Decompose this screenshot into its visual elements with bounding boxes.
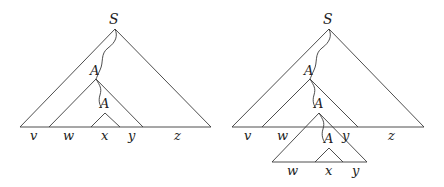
left-root-triangle xyxy=(20,29,211,127)
right-yield-y: y xyxy=(341,128,350,143)
left-yield-w: w xyxy=(63,128,74,143)
right-root-label: S xyxy=(323,11,333,27)
right-a-label-3: A xyxy=(323,131,333,146)
right-middle-subtree xyxy=(262,79,358,127)
left-yield-y: y xyxy=(127,128,136,143)
right-inner-subtree xyxy=(315,148,343,162)
right-parse-tree: S A A A v w y z w x y xyxy=(232,11,424,178)
left-inner-subtree xyxy=(91,113,120,127)
left-a-label: A xyxy=(89,63,99,78)
right-lower-yield-x: x xyxy=(325,163,333,178)
right-yield-w: w xyxy=(277,128,288,143)
right-a-label-2: A xyxy=(313,96,323,111)
right-yield-v: v xyxy=(244,128,252,143)
left-root-label: S xyxy=(109,11,119,27)
right-lower-yield-w: w xyxy=(287,163,298,178)
pumping-lemma-diagram: S A A v w x y z S A A A v w y z w x y xyxy=(0,0,444,187)
left-yield-x: x xyxy=(101,128,109,143)
right-yield-z: z xyxy=(387,128,395,143)
left-yield-v: v xyxy=(30,128,38,143)
left-parse-tree: S A A v w x y z xyxy=(20,11,211,143)
left-yield-z: z xyxy=(173,128,181,143)
right-root-triangle xyxy=(232,29,424,127)
right-a-label-1: A xyxy=(303,63,313,78)
left-inner-a-label: A xyxy=(99,96,109,111)
right-lower-yield-y: y xyxy=(351,163,360,178)
left-middle-subtree xyxy=(49,79,143,127)
